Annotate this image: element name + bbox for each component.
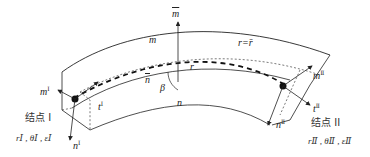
t1-label: tⅠ [98, 101, 103, 112]
m1-label: mⅠ [40, 86, 50, 97]
m-label: m [149, 35, 156, 45]
n-bar-label: n [145, 75, 150, 85]
m2-label: mⅡ [313, 70, 324, 81]
node-2-vars: rⅡ , θⅡ , εⅡ [308, 137, 351, 146]
t2-label: tⅡ [313, 103, 320, 114]
beta-label: β [160, 83, 165, 93]
node-2-name: 结点 II [311, 118, 340, 128]
curved-beam-diagram: m m r=r̄ r n β n mⅠ tⅠ nⅠ 结点 I rⅠ , θⅠ ,… [0, 0, 370, 157]
r-equals-r-bar-label: r=r̄ [238, 38, 253, 48]
r-label: r [190, 62, 194, 72]
m-bar-label: m [172, 9, 179, 19]
n1-label: nⅠ [73, 140, 80, 151]
node-1-vars: rⅠ , θⅠ , εⅠ [16, 134, 52, 143]
n-label: n [177, 98, 182, 108]
n2-label: nⅡ [276, 119, 285, 130]
node-1-name: 结点 I [25, 113, 51, 123]
